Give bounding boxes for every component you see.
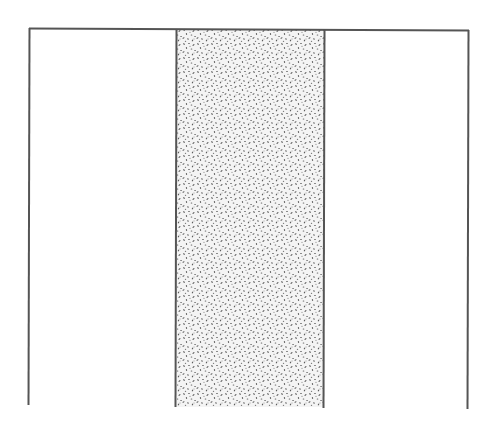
right-wall	[468, 30, 469, 409]
left-wall	[29, 28, 30, 405]
top-edge	[29, 29, 469, 31]
left-divider	[176, 29, 177, 407]
right-divider	[324, 30, 325, 409]
middle-compartment-fill	[177, 30, 324, 407]
compartment-diagram	[0, 0, 500, 434]
